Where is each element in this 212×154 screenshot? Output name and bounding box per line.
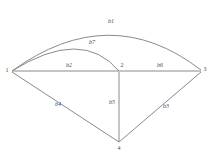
- node-label-4: 4: [118, 145, 121, 151]
- edge-label-b4: b4: [55, 101, 61, 107]
- edge-label-b5: b5: [109, 99, 115, 105]
- edge-label-b3: b3: [163, 103, 169, 109]
- node-label-1: 1: [6, 67, 9, 73]
- graph-diagram: b1 b7 b2 b6 b4 b5 b3 1 2 3 4: [0, 0, 212, 154]
- node-label-3: 3: [204, 66, 207, 72]
- edge-b1-arc: [12, 35, 201, 71]
- edge-label-b2: b2: [66, 62, 72, 68]
- edge-b4-line: [12, 72, 119, 142]
- edge-b3-line: [119, 72, 201, 142]
- edge-label-b1: b1: [108, 18, 114, 24]
- graph-canvas: b1 b7 b2 b6 b4 b5 b3 1 2 3 4: [0, 0, 212, 154]
- edge-label-b7: b7: [89, 39, 96, 45]
- edge-label-b6: b6: [157, 62, 163, 68]
- node-label-2: 2: [121, 62, 124, 68]
